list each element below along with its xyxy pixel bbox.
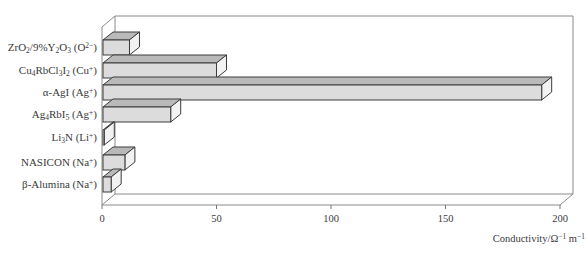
category-label: Ag4RbI5 (Ag+) (32, 108, 98, 122)
back-wall (115, 16, 573, 194)
x-tick-label: 50 (211, 213, 222, 224)
chart-canvas: ZrO2/9%Y2O3 (O2−)Cu4RbCl3I2 (Cu+)α-AgI (… (0, 0, 588, 256)
category-label: NASICON (Na+) (21, 156, 97, 169)
x-tick-label: 0 (99, 213, 104, 224)
x-tick-label: 150 (438, 213, 454, 224)
bar (103, 99, 181, 122)
bar-front-face (103, 130, 104, 145)
bar (103, 55, 227, 78)
bar (103, 169, 121, 192)
bar-front-face (103, 63, 217, 78)
floor (102, 194, 573, 205)
bar-front-face (103, 177, 111, 192)
bar-front-face (103, 40, 129, 55)
x-axis-title: Conductivity/Ω−1 m−1 (493, 232, 586, 244)
bar-top-face (103, 77, 552, 85)
bar-front-face (103, 107, 171, 122)
category-label: Li3N (Li+) (51, 131, 97, 145)
bar-top-face (103, 99, 181, 107)
category-labels: ZrO2/9%Y2O3 (O2−)Cu4RbCl3I2 (Cu+)α-AgI (… (8, 41, 98, 191)
bar-front-face (103, 155, 125, 170)
x-axis-ticks: 050100150200 (99, 205, 568, 224)
bar-top-face (103, 55, 227, 63)
category-label: β-Alumina (Na+) (22, 178, 97, 191)
category-label: α-AgI (Ag+) (43, 86, 98, 99)
bar (103, 32, 139, 55)
bar-side-face (104, 122, 114, 145)
bars-group (103, 32, 552, 192)
category-label: ZrO2/9%Y2O3 (O2−) (8, 41, 98, 55)
conductivity-bar-chart: ZrO2/9%Y2O3 (O2−)Cu4RbCl3I2 (Cu+)α-AgI (… (0, 0, 588, 256)
bar (103, 77, 552, 100)
x-tick-label: 200 (552, 213, 568, 224)
category-label: Cu4RbCl3I2 (Cu+) (19, 64, 97, 78)
x-tick-label: 100 (323, 213, 339, 224)
bar (103, 122, 114, 145)
bar-front-face (103, 85, 542, 100)
bar (103, 147, 135, 170)
